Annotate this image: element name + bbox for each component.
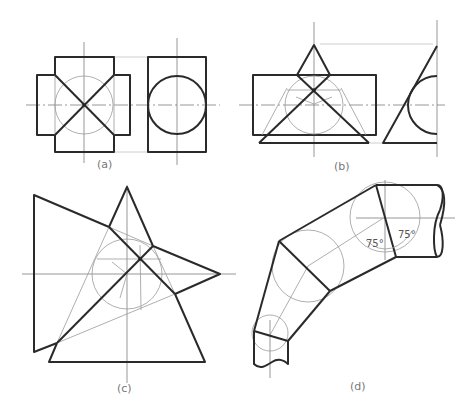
panel-a: (a) <box>26 38 220 171</box>
panel-d: 75° 75° (d) <box>252 180 455 393</box>
panel-c: (c) <box>22 185 236 395</box>
panel-b: (b) <box>239 20 445 173</box>
label-d: (d) <box>350 380 366 393</box>
label-a: (a) <box>97 158 112 171</box>
angle-label-right: 75° <box>398 229 416 240</box>
label-c: (c) <box>117 382 132 395</box>
angle-label-left: 75° <box>366 238 384 249</box>
label-b: (b) <box>334 160 350 173</box>
technical-drawing: (a) (b) <box>0 0 473 413</box>
